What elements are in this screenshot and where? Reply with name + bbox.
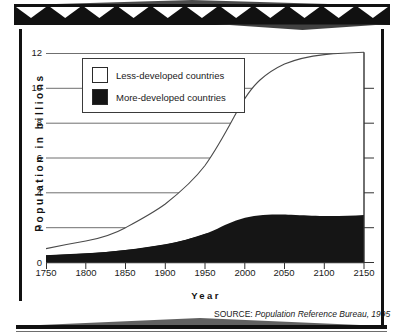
source-attribution: SOURCE: Population Reference Bureau, 199… bbox=[214, 309, 390, 319]
y-tick-label-12: 12 bbox=[20, 48, 42, 58]
band-bottom-wedge-decoration bbox=[215, 24, 390, 30]
chevron-icon bbox=[358, 7, 388, 18]
legend-swatch-less-developed bbox=[92, 67, 108, 83]
chevron-icon bbox=[16, 7, 46, 18]
chevron-icon bbox=[290, 7, 320, 18]
x-tick-label-1950: 1950 bbox=[185, 268, 225, 278]
y-tick-label-2: 2 bbox=[20, 223, 42, 233]
frame-bottom-hairline bbox=[16, 331, 387, 332]
chevron-icon bbox=[84, 7, 114, 18]
x-tick-label-1800: 1800 bbox=[66, 268, 106, 278]
legend-item-more-developed: More-developed countries bbox=[92, 86, 244, 108]
chart-legend: Less-developed countries More-developed … bbox=[82, 58, 245, 113]
plot-area: Less-developed countries More-developed … bbox=[46, 45, 376, 285]
x-tick-label-2000: 2000 bbox=[225, 268, 265, 278]
chevron-band-decoration bbox=[14, 4, 390, 25]
frame-bottom-wedge-decoration bbox=[40, 318, 360, 325]
chevron-icon bbox=[153, 7, 183, 18]
x-tick-label-2100: 2100 bbox=[304, 268, 344, 278]
y-tick-label-8: 8 bbox=[20, 118, 42, 128]
chevron-icon bbox=[50, 7, 80, 18]
chevron-icon bbox=[187, 7, 217, 18]
chevron-row bbox=[14, 4, 390, 25]
legend-swatch-more-developed bbox=[92, 89, 108, 105]
chevron-icon bbox=[255, 7, 285, 18]
y-axis-right-ticks bbox=[364, 88, 374, 262]
x-tick-label-1750: 1750 bbox=[26, 268, 66, 278]
legend-label-less-developed: Less-developed countries bbox=[116, 70, 224, 81]
x-tick-label-1850: 1850 bbox=[105, 268, 145, 278]
legend-label-more-developed: More-developed countries bbox=[116, 92, 226, 103]
frame-bottom-rule bbox=[16, 325, 387, 329]
chevron-icon bbox=[324, 7, 354, 18]
frame-right-rule bbox=[381, 29, 384, 325]
x-tick-label-2150: 2150 bbox=[344, 268, 384, 278]
population-chart-figure: Population in billions Year bbox=[0, 0, 403, 336]
y-tick-label-6: 6 bbox=[20, 153, 42, 163]
y-tick-label-4: 4 bbox=[20, 188, 42, 198]
x-tick-label-2050: 2050 bbox=[264, 268, 304, 278]
x-tick-label-1900: 1900 bbox=[145, 268, 185, 278]
x-axis-title: Year bbox=[46, 290, 366, 301]
y-tick-label-10: 10 bbox=[20, 83, 42, 93]
source-label: SOURCE: bbox=[214, 309, 253, 319]
source-value: Population Reference Bureau, 1995 bbox=[255, 309, 390, 319]
chevron-icon bbox=[119, 7, 149, 18]
legend-item-less-developed: Less-developed countries bbox=[92, 64, 244, 86]
chevron-icon bbox=[221, 7, 251, 18]
